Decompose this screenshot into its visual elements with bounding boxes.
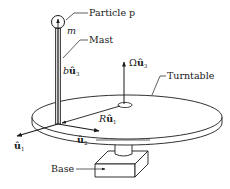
base-label: Base [51, 163, 75, 174]
mast-leader [63, 40, 88, 58]
omega-label: Ωû3 [129, 57, 148, 69]
turntable-leader [152, 76, 166, 95]
center-hole [118, 102, 132, 107]
particle-label: Particle p [89, 7, 135, 18]
particle-leader [66, 13, 88, 20]
mass-label: m [67, 25, 76, 36]
turntable-label: Turntable [167, 70, 215, 81]
mast-vector-label: bû3 [63, 65, 80, 77]
axis-u1-label: û1 [14, 140, 24, 152]
turntable-mast-diagram: Particle p m Mast bû3 Ωû3 Turntable Rû1 … [0, 0, 230, 189]
mast-label: Mast [89, 34, 113, 45]
